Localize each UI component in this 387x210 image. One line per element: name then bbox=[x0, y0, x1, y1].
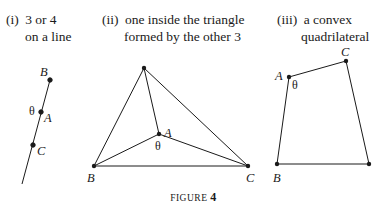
label-c: C bbox=[341, 45, 350, 59]
label-c: C bbox=[37, 144, 46, 158]
triangle-points bbox=[92, 66, 250, 168]
figure-caption: FIGURE 4 bbox=[0, 190, 387, 205]
panel-collinear bbox=[22, 78, 52, 184]
point-b bbox=[48, 78, 52, 82]
line bbox=[22, 80, 50, 184]
figure-label: FIGURE bbox=[170, 193, 207, 203]
figure-number: 4 bbox=[210, 190, 217, 204]
figure-canvas: B A C θ A B C θ A C B θ bbox=[0, 0, 387, 210]
quadrilateral-points bbox=[275, 59, 371, 166]
label-c: C bbox=[246, 171, 255, 185]
label-a: A bbox=[43, 111, 52, 125]
point-a bbox=[287, 75, 291, 79]
segment-top-a bbox=[144, 68, 159, 134]
label-a: A bbox=[163, 126, 172, 140]
angle-theta: θ bbox=[292, 78, 298, 92]
point-c bbox=[344, 59, 348, 63]
angle-theta: θ bbox=[29, 104, 35, 118]
point-c bbox=[246, 164, 250, 168]
point-b bbox=[275, 162, 279, 166]
point-a bbox=[39, 110, 43, 114]
point-c bbox=[31, 143, 35, 147]
point-b bbox=[92, 164, 96, 168]
panel-triangle bbox=[94, 68, 248, 166]
point-d bbox=[367, 162, 371, 166]
label-a: A bbox=[274, 69, 283, 83]
label-b: B bbox=[87, 171, 95, 185]
label-b: B bbox=[40, 65, 48, 79]
triangle bbox=[94, 68, 248, 166]
label-b: B bbox=[273, 171, 281, 185]
point-top bbox=[142, 66, 146, 70]
segment-b-a bbox=[94, 134, 159, 166]
segment-c-a bbox=[159, 134, 248, 166]
angle-theta: θ bbox=[155, 139, 161, 153]
point-a bbox=[157, 132, 161, 136]
